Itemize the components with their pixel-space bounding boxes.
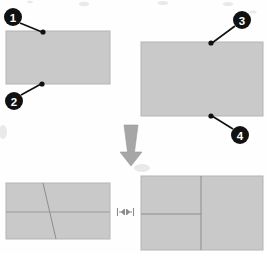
callout-3-anchor-dot [208,40,213,45]
diagram-svg: 1 2 3 4 [0,0,266,254]
panel-bottom-left-sheet [6,183,110,239]
callout-4-leader-line [212,116,233,129]
callout-3[interactable]: 3 [208,11,251,46]
callout-4-anchor-dot [208,113,213,118]
width-dimension-icon [118,208,134,216]
panel-top-left-sheet [6,31,110,84]
top-right-sheet-body [141,42,263,116]
callout-3-leader-line [212,26,235,43]
callout-1-badge[interactable] [4,8,22,26]
callout-3-badge[interactable] [233,11,251,29]
panel-top-right-sheet [141,42,263,116]
bottom-right-sheet-body [141,176,263,250]
callout-4[interactable]: 4 [208,113,249,144]
callout-2-leader-line [21,84,41,95]
callout-2-badge[interactable] [5,92,23,110]
panel-bottom-right-sheet [141,176,263,250]
bottom-left-sheet-body [6,183,110,239]
figure-canvas: 1 2 3 4 [0,0,266,254]
callout-4-badge[interactable] [231,126,249,144]
callout-1-anchor-dot [40,29,45,34]
callout-2-anchor-dot [39,81,44,86]
top-left-sheet-body [6,31,110,84]
callout-2[interactable]: 2 [5,81,45,110]
down-arrow-icon [120,125,142,166]
